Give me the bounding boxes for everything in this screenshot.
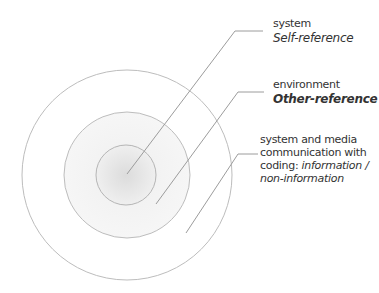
label-system: system Self-reference [273,16,353,46]
label-media-line-1: system and media [260,133,369,146]
label-system-subtitle: Self-reference [273,31,353,46]
label-environment-title: environment [273,77,377,92]
label-media-line-3: coding: information / [260,159,369,172]
label-media-line-4: non-information [260,172,369,185]
label-environment-subtitle: Other-reference [273,92,377,107]
inner-circle-system [96,145,156,205]
label-system-title: system [273,16,353,31]
label-media-line-2: communication with [260,146,369,159]
label-media-line-3-prefix: coding: [260,159,302,172]
label-media-line-3-italic: information / [302,159,369,172]
label-media: system and media communication with codi… [260,133,369,185]
label-environment: environment Other-reference [273,77,377,107]
